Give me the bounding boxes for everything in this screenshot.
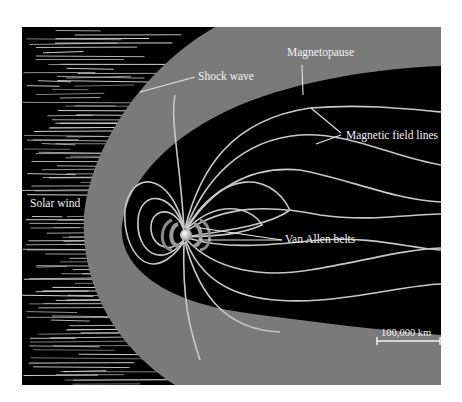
solar-wind-streak xyxy=(36,266,66,267)
shock-wave-label: Shock wave xyxy=(198,70,254,82)
solar-wind-streak xyxy=(33,350,115,351)
van-allen-belts-label: Van Allen belts xyxy=(285,233,356,245)
magnetic-field-lines-label: Magnetic field lines xyxy=(346,129,438,142)
solar-wind-streak xyxy=(27,86,60,87)
scale-bar-label: 100,000 km xyxy=(381,327,431,338)
earth xyxy=(180,229,192,241)
magnetosphere-diagram: Shock wave Magnetopause Magnetic field l… xyxy=(0,0,462,402)
solar-wind-streak xyxy=(59,97,100,98)
magnetopause-label: Magnetopause xyxy=(287,46,354,59)
solar-wind-label: Solar wind xyxy=(30,197,80,209)
